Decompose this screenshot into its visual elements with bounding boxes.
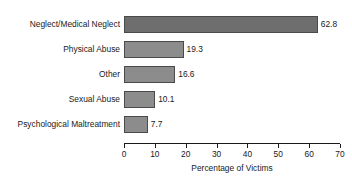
bar — [124, 116, 148, 133]
bar-chart: Neglect/Medical Neglect 62.8 Physical Ab… — [0, 0, 352, 184]
category-label: Psychological Maltreatment — [0, 116, 120, 133]
value-label: 16.6 — [178, 66, 194, 83]
x-axis-tick — [217, 144, 218, 148]
x-axis-tick-label: 20 — [171, 149, 201, 159]
value-label: 10.1 — [158, 91, 174, 108]
x-axis-line — [124, 143, 340, 144]
x-axis-tick-label: 70 — [325, 149, 352, 159]
bar — [124, 16, 318, 33]
chart-row: Psychological Maltreatment 7.7 — [0, 116, 352, 133]
x-axis-tick — [278, 144, 279, 148]
x-axis-tick-label: 50 — [263, 149, 293, 159]
x-axis-tick — [309, 144, 310, 148]
x-axis-tick — [124, 144, 125, 148]
value-label: 7.7 — [151, 116, 163, 133]
x-axis-tick-label: 30 — [202, 149, 232, 159]
x-axis-tick-label: 0 — [109, 149, 139, 159]
x-axis-tick — [340, 144, 341, 148]
x-axis-tick — [247, 144, 248, 148]
chart-row: Neglect/Medical Neglect 62.8 — [0, 16, 352, 33]
category-label: Physical Abuse — [0, 41, 120, 58]
x-axis-tick — [186, 144, 187, 148]
value-label: 62.8 — [321, 16, 337, 33]
x-axis-tick-label: 40 — [232, 149, 262, 159]
value-label: 19.3 — [187, 41, 203, 58]
x-axis-tick — [155, 144, 156, 148]
bar — [124, 91, 155, 108]
chart-row: Sexual Abuse 10.1 — [0, 91, 352, 108]
bar — [124, 41, 184, 58]
x-axis-tick-label: 60 — [294, 149, 324, 159]
chart-row: Physical Abuse 19.3 — [0, 41, 352, 58]
x-axis-tick-label: 10 — [140, 149, 170, 159]
x-axis-title: Percentage of Victims — [124, 163, 340, 173]
chart-row: Other 16.6 — [0, 66, 352, 83]
category-label: Other — [0, 66, 120, 83]
category-label: Neglect/Medical Neglect — [0, 16, 120, 33]
category-label: Sexual Abuse — [0, 91, 120, 108]
bar — [124, 66, 175, 83]
